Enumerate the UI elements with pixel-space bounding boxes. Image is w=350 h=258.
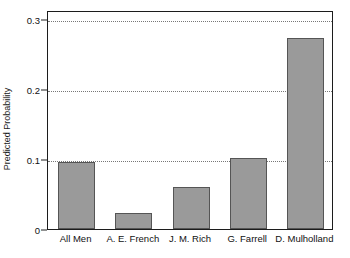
x-tick-label: J. M. Rich [169,233,211,244]
plot-area [47,11,333,230]
y-tick-mark-0.3 [41,19,47,20]
gridline-y-0.3 [48,21,332,22]
bar-chart-figure: Predicted Probability 00.10.20.3 All Men… [0,0,350,258]
x-tick-label: All Men [60,233,92,244]
y-tick-mark-0.2 [41,89,47,90]
x-axis-tick-labels: All MenA. E. FrenchJ. M. RichG. FarrellD… [47,233,333,251]
x-tick-label: D. Mulholland [275,233,333,244]
y-tick-label-0.2: 0.2 [14,84,40,95]
y-tick-label-0.3: 0.3 [14,14,40,25]
y-axis-tick-labels: 00.10.20.3 [14,0,40,258]
bar [173,187,210,229]
x-tick-label: A. E. French [106,233,159,244]
bar [287,38,324,229]
y-tick-label-0.1: 0.1 [14,154,40,165]
bar [115,213,152,229]
y-tick-label-0: 0 [14,225,40,236]
bar [58,162,95,229]
x-tick-label: G. Farrell [227,233,267,244]
y-tick-mark-0 [41,230,47,231]
bar [230,158,267,229]
y-tick-mark-0.1 [41,159,47,160]
y-axis-title: Predicted Probability [0,0,14,258]
